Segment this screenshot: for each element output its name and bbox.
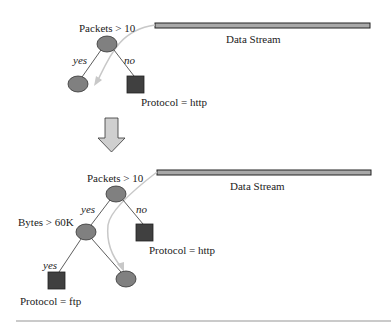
bottom-root-label: Packets > 10 bbox=[87, 172, 143, 184]
bottom-root-node bbox=[106, 186, 126, 202]
bottom-http-label: Protocol = http bbox=[149, 244, 215, 256]
inner-yes-label: yes bbox=[43, 259, 57, 271]
top-http-leaf bbox=[127, 76, 144, 93]
top-root-node bbox=[97, 36, 117, 52]
top-curve-arrowhead-icon bbox=[94, 76, 102, 86]
bottom-yes-label: yes bbox=[81, 203, 95, 215]
bytes-node bbox=[76, 224, 96, 240]
ftp-label: Protocol = ftp bbox=[20, 295, 81, 307]
bottom-data-stream-bar bbox=[157, 170, 371, 175]
bottom-no-label: no bbox=[136, 203, 147, 215]
inner-edge-yes bbox=[59, 239, 81, 272]
top-yes-label: yes bbox=[73, 54, 87, 66]
bottom-right-node bbox=[116, 271, 136, 287]
bottom-stream-label: Data Stream bbox=[230, 180, 285, 192]
top-stream-label: Data Stream bbox=[226, 33, 281, 45]
bytes-label: Bytes > 60K bbox=[18, 216, 74, 228]
top-left-node bbox=[68, 76, 88, 92]
down-arrow-icon bbox=[98, 118, 125, 152]
bottom-http-leaf bbox=[136, 224, 153, 241]
inner-edge-no bbox=[92, 239, 121, 272]
ftp-leaf bbox=[48, 272, 65, 289]
top-http-label: Protocol = http bbox=[141, 96, 207, 108]
diagram-canvas bbox=[0, 0, 391, 326]
top-no-label: no bbox=[124, 54, 135, 66]
bottom-tree bbox=[48, 170, 371, 289]
top-data-stream-bar bbox=[155, 23, 370, 28]
top-root-label: Packets > 10 bbox=[79, 22, 135, 34]
